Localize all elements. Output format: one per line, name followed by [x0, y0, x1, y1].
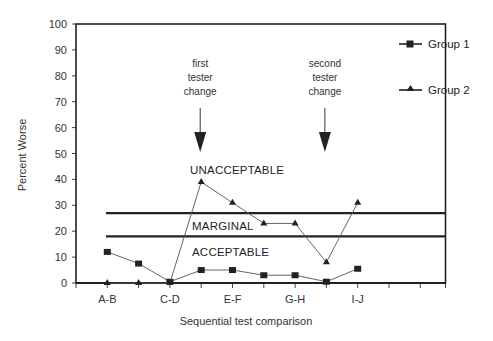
y-tick-label: 40 — [55, 173, 67, 185]
y-tick-label: 90 — [55, 44, 67, 56]
y-tick-label: 100 — [49, 18, 67, 30]
square-marker-icon — [323, 279, 330, 285]
square-marker-icon — [104, 249, 111, 255]
y-axis-title: Percent Worse — [16, 119, 28, 192]
legend-entry-group-2: Group 2 — [399, 84, 470, 96]
y-tick-label: 50 — [55, 148, 67, 160]
legend-label-group-2: Group 2 — [428, 84, 470, 96]
square-marker-icon — [292, 272, 299, 278]
legend-entry-group-1: Group 1 — [399, 38, 470, 50]
annotation-text: second — [309, 58, 341, 69]
square-marker-icon — [354, 266, 361, 272]
zone-label-acceptable: ACCEPTABLE — [192, 246, 269, 258]
triangle-marker-icon — [292, 219, 299, 225]
y-axis: 0102030405060708090100 — [49, 18, 76, 289]
plot-frame — [76, 24, 446, 283]
threshold-lines — [106, 213, 446, 236]
square-marker-icon — [229, 267, 236, 273]
triangle-marker-icon — [354, 199, 361, 205]
triangle-marker-icon — [229, 199, 236, 205]
line-chart: 0102030405060708090100 A-BC-DE-FG-HI-J U… — [0, 0, 493, 341]
y-tick-label: 20 — [55, 225, 67, 237]
triangle-marker-icon — [198, 178, 205, 184]
y-tick-label: 70 — [55, 96, 67, 108]
zone-label-marginal: MARGINAL — [192, 220, 254, 232]
annotation-text: change — [308, 86, 341, 97]
x-tick-label: A-B — [98, 293, 116, 305]
square-marker-icon — [198, 267, 205, 273]
x-tick-label: E-F — [224, 293, 242, 305]
arrow-down-icon — [194, 132, 206, 152]
y-tick-label: 0 — [61, 277, 67, 289]
square-marker-icon — [260, 272, 267, 278]
annotations: firsttesterchangesecondtesterchange — [184, 58, 342, 152]
y-tick-label: 80 — [55, 70, 67, 82]
annotation-text: tester — [312, 72, 338, 83]
y-tick-label: 30 — [55, 199, 67, 211]
annotation-text: first — [192, 58, 208, 69]
annotation-text: change — [184, 86, 217, 97]
y-tick-label: 10 — [55, 251, 67, 263]
x-axis-title: Sequential test comparison — [180, 315, 313, 327]
annotation-text: tester — [188, 72, 214, 83]
square-marker-icon — [135, 261, 142, 267]
triangle-marker-icon — [260, 219, 267, 225]
legend-label-group-1: Group 1 — [428, 38, 470, 50]
triangle-marker-icon — [407, 85, 415, 91]
zone-label-unacceptable: UNACCEPTABLE — [190, 164, 284, 176]
x-axis: A-BC-DE-FG-HI-J — [76, 283, 446, 305]
zone-labels: UNACCEPTABLE MARGINAL ACCEPTABLE — [190, 164, 284, 258]
arrow-down-icon — [319, 132, 331, 152]
x-tick-label: G-H — [285, 293, 305, 305]
y-tick-label: 60 — [55, 122, 67, 134]
x-tick-label: C-D — [160, 293, 180, 305]
x-tick-label: I-J — [352, 293, 364, 305]
legend: Group 1 Group 2 — [399, 38, 470, 96]
square-marker-icon — [407, 41, 414, 48]
